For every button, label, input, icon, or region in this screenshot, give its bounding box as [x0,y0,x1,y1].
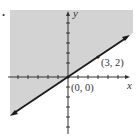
y-axis-label: y [72,7,78,19]
point-3-2 [96,55,99,58]
origin-label: (0, 0) [71,82,94,94]
point-origin [66,75,69,78]
point-3-2-label: (3, 2) [101,57,124,69]
x-axis-label: x [126,79,132,91]
bullet-mark: . [2,5,5,19]
inequality-graph: . y x (0, 0) (3, 2) [0,0,136,139]
